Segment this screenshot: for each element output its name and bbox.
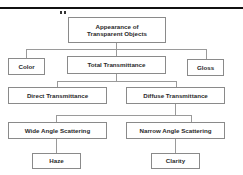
node-total-transmittance: Total Transmittance bbox=[67, 56, 166, 74]
node-label: Wide Angle Scattering bbox=[25, 127, 90, 134]
node-label: Total Transmittance bbox=[88, 61, 146, 68]
connector bbox=[116, 74, 117, 81]
node-label: Haze bbox=[49, 157, 63, 164]
connector bbox=[57, 81, 177, 82]
node-appearance-of-transparent-objects: Appearance of Transparent Objects bbox=[68, 17, 166, 43]
cropped-header-fragment bbox=[60, 0, 68, 3]
node-label: Narrow Angle Scattering bbox=[140, 127, 212, 134]
node-gloss: Gloss bbox=[187, 59, 224, 76]
node-label: Direct Transmittance bbox=[27, 92, 88, 99]
connector bbox=[175, 104, 176, 115]
node-color: Color bbox=[8, 58, 45, 75]
connector bbox=[206, 49, 207, 59]
connector bbox=[56, 115, 192, 116]
node-clarity: Clarity bbox=[151, 153, 200, 169]
node-label: Diffuse Transmittance bbox=[143, 92, 208, 99]
connector bbox=[116, 49, 117, 56]
node-label: Gloss bbox=[197, 64, 214, 71]
node-wide-angle-scattering: Wide Angle Scattering bbox=[8, 122, 107, 139]
connector bbox=[56, 139, 57, 153]
header-rule bbox=[0, 7, 243, 9]
connector bbox=[191, 115, 192, 122]
node-label: Color bbox=[18, 63, 34, 70]
node-label-line2: Transparent Objects bbox=[87, 30, 147, 37]
node-label: Clarity bbox=[166, 157, 185, 164]
node-direct-transmittance: Direct Transmittance bbox=[8, 87, 107, 104]
node-label-line1: Appearance of bbox=[96, 23, 139, 30]
connector bbox=[175, 139, 176, 153]
connector bbox=[26, 49, 27, 58]
node-haze: Haze bbox=[32, 153, 81, 169]
node-diffuse-transmittance: Diffuse Transmittance bbox=[126, 87, 225, 104]
node-narrow-angle-scattering: Narrow Angle Scattering bbox=[126, 122, 225, 139]
connector bbox=[56, 115, 57, 122]
